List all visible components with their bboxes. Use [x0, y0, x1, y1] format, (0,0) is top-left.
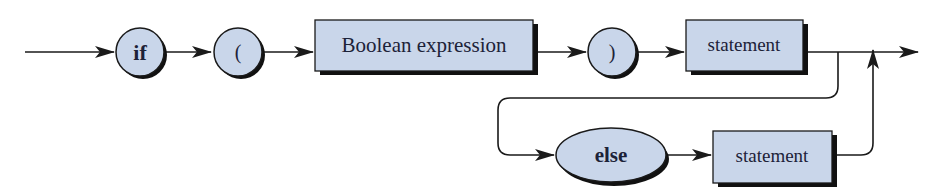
node-boolean-expression: Boolean expression: [315, 20, 538, 75]
if-statement-syntax-diagram: if ( Boolean expression ) statement else…: [0, 0, 948, 193]
node-if: if: [116, 28, 167, 79]
node-statement-then-label: statement: [708, 34, 782, 55]
rejoin-path: [836, 50, 873, 155]
node-statement-else: statement: [713, 131, 837, 187]
node-lparen-label: (: [235, 41, 242, 64]
node-if-label: if: [133, 40, 147, 65]
node-statement-else-label: statement: [736, 145, 810, 166]
node-statement-then: statement: [686, 20, 808, 75]
node-rparen-label: ): [609, 41, 616, 64]
node-rparen: ): [588, 28, 639, 79]
node-boolean-expression-label: Boolean expression: [341, 33, 507, 57]
node-else-label: else: [595, 143, 628, 167]
node-lparen: (: [214, 28, 265, 79]
node-else: else: [556, 128, 669, 186]
